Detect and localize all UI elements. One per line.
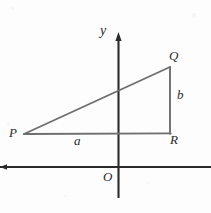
x-axis-arrow-icon (0, 164, 7, 170)
vertex-label-r: R (170, 133, 178, 146)
vertex-label-q: Q (169, 49, 178, 62)
side-length-label-b: b (177, 88, 184, 101)
triangle-pqr (24, 67, 171, 134)
vertex-label-p: P (9, 126, 17, 139)
geometry-figure: y O P Q R a b (0, 0, 211, 213)
triangle-side-pr (24, 133, 171, 134)
y-axis-arrow-icon (115, 32, 121, 41)
y-axis (115, 32, 121, 198)
y-axis-label: y (100, 24, 106, 38)
side-length-label-a: a (74, 134, 81, 147)
triangle-side-pq (24, 67, 170, 134)
origin-label: O (103, 170, 112, 183)
